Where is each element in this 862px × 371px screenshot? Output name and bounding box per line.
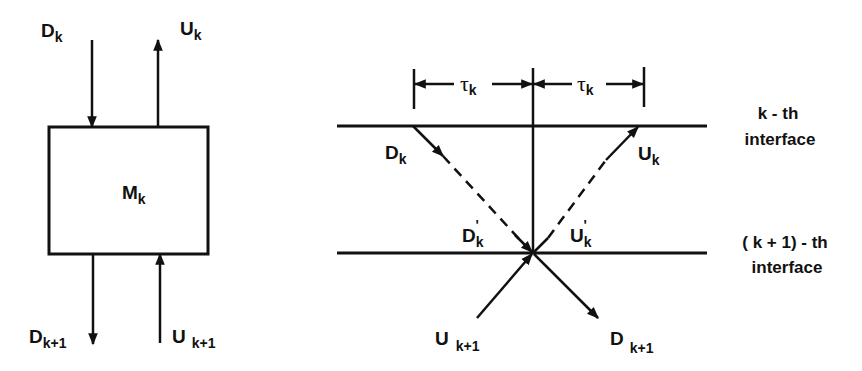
interface-k1-label-line1: ( k + 1) - th <box>742 233 827 252</box>
label-dk: Dk <box>41 20 63 45</box>
block-label: Mk <box>122 182 146 207</box>
ray-uk1 <box>477 254 532 318</box>
label-uk-prime: Uk' <box>570 217 592 250</box>
label-dk-prime: Dk' <box>462 217 484 250</box>
ray-dk-prime-tip <box>515 235 532 252</box>
label-dk1-ray: Dk+1 <box>610 328 654 356</box>
label-uk-ray: Uk <box>638 143 660 168</box>
ray-dk1 <box>534 254 598 318</box>
interface-k-label-line2: interface <box>745 130 816 149</box>
ray-uk-solid <box>606 127 638 160</box>
interface-k-label-line1: k - th <box>758 104 799 123</box>
ray-dk-dashed <box>443 156 520 240</box>
label-uk1-ray: Uk+1 <box>435 328 480 354</box>
label-uk: Uk <box>180 18 202 43</box>
layered-medium-diagram: Mk Dk Uk Dk+1 Uk+1 τk τk <box>0 0 862 371</box>
ray-dk-solid <box>413 126 443 156</box>
interface-k1-label-line2: interface <box>752 258 823 277</box>
label-dk-ray: Dk <box>385 142 407 167</box>
tau-left-label: τk <box>460 71 477 98</box>
label-dk1: Dk+1 <box>29 326 67 351</box>
block-diagram: Mk Dk Uk Dk+1 Uk+1 <box>29 18 216 351</box>
ray-uk-solid-base <box>533 238 548 253</box>
interface-diagram: τk τk Dk Uk Dk' Uk' Uk+1 Dk+1 k - th int… <box>337 67 828 356</box>
tau-right-label: τk <box>577 71 594 98</box>
label-uk1: Uk+1 <box>172 326 216 351</box>
